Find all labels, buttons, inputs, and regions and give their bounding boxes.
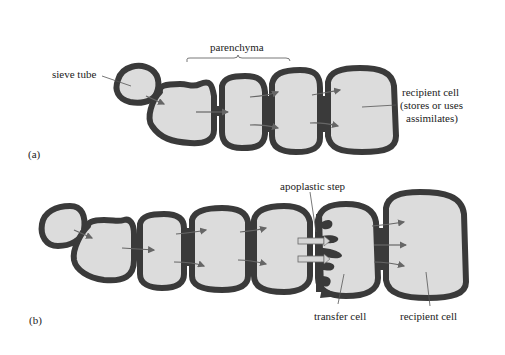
apoplastic-channel <box>298 256 324 262</box>
parenchyma-cell-b2 <box>140 214 184 288</box>
sieve-tube-cell-a <box>117 66 159 103</box>
recipient-cell-b-label: recipient cell <box>400 310 457 322</box>
parenchyma-cell-a2 <box>222 76 265 148</box>
diagram-canvas: sieve tube parenchyma recipient cell (st… <box>0 0 505 355</box>
wall-junction <box>378 228 386 270</box>
recipient-label-line2: (stores or uses <box>400 99 463 112</box>
recipient-label-line1: recipient cell <box>402 86 459 98</box>
phloem-unloading-diagram: sieve tube parenchyma recipient cell (st… <box>0 0 505 355</box>
wall-junction <box>215 106 223 116</box>
wall-junction <box>320 96 328 132</box>
apoplastic-channel <box>298 238 324 244</box>
apoplastic-step-label: apoplastic step <box>280 180 346 192</box>
recipient-label-line3: assimilates) <box>406 112 458 125</box>
recipient-cell-a <box>328 68 396 152</box>
parenchyma-bracket <box>187 55 290 62</box>
parenchyma-cell-b3 <box>192 208 248 290</box>
panel-b-label: (b) <box>29 314 42 327</box>
panel-a-label: (a) <box>28 148 41 161</box>
parenchyma-cell-a1 <box>150 83 214 144</box>
sieve-tube-label: sieve tube <box>52 68 96 80</box>
parenchyma-cell-a3 <box>272 70 320 152</box>
panel-b: apoplastic step transfer cell recipient … <box>29 180 466 327</box>
panel-a: sieve tube parenchyma recipient cell (st… <box>28 41 463 161</box>
parenchyma-label: parenchyma <box>210 41 264 53</box>
wall-junction <box>134 238 142 248</box>
parenchyma-cell-b1 <box>74 220 134 281</box>
transfer-cell-label: transfer cell <box>314 310 366 322</box>
parenchyma-cell-b4 <box>254 206 310 292</box>
